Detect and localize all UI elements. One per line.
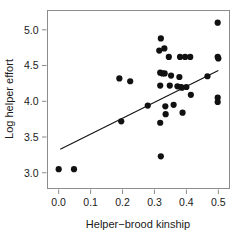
x-tick-label: 0.4	[179, 196, 194, 208]
plot-frame-box	[48, 11, 230, 189]
x-tick-label: 0.1	[83, 196, 98, 208]
data-point	[162, 70, 168, 76]
data-points	[56, 20, 222, 173]
y-tick-label: 4.0	[24, 95, 39, 107]
x-axis-ticks	[59, 190, 219, 195]
data-point	[215, 20, 221, 26]
data-point	[176, 74, 182, 80]
data-point	[71, 166, 77, 172]
x-tick-label: 0.3	[147, 196, 162, 208]
data-point	[167, 82, 173, 88]
x-tick-label: 0.5	[211, 196, 226, 208]
x-axis-tick-labels: 0.00.10.20.30.40.5	[51, 196, 225, 208]
y-tick-label: 3.0	[24, 167, 39, 179]
data-point	[127, 78, 133, 84]
x-tick-label: 0.2	[115, 196, 130, 208]
y-axis-label: Log helper effort	[3, 59, 15, 139]
plot-frame	[48, 11, 230, 189]
data-point	[166, 54, 172, 60]
regression-trend-line	[60, 71, 218, 150]
data-point	[168, 72, 174, 78]
regression-line	[60, 71, 218, 150]
data-point	[204, 73, 210, 79]
data-point	[183, 84, 189, 90]
data-point	[179, 110, 185, 116]
data-point	[116, 75, 122, 81]
data-point	[162, 103, 168, 109]
y-tick-label: 5.0	[24, 24, 39, 36]
plot-canvas: 0.00.10.20.30.40.5 3.03.54.04.55.0 Helpe…	[0, 0, 248, 234]
x-tick-label: 0.0	[51, 196, 66, 208]
data-point	[163, 111, 169, 117]
data-point	[157, 82, 163, 88]
data-point	[161, 45, 167, 51]
y-axis-ticks	[42, 30, 47, 173]
data-point	[145, 102, 151, 108]
data-point	[171, 102, 177, 108]
data-point	[158, 35, 164, 41]
data-point	[157, 120, 163, 126]
data-point	[56, 166, 62, 172]
data-point	[215, 99, 221, 105]
y-tick-label: 3.5	[24, 131, 39, 143]
data-point	[118, 118, 124, 124]
data-point	[215, 55, 221, 61]
scatter-plot-figure: 0.00.10.20.30.40.5 3.03.54.04.55.0 Helpe…	[0, 0, 248, 234]
data-point	[158, 153, 164, 159]
data-point	[188, 92, 194, 98]
y-tick-label: 4.5	[24, 59, 39, 71]
y-axis-tick-labels: 3.03.54.04.55.0	[24, 24, 39, 179]
x-axis-label: Helper−brood kinship	[86, 218, 190, 230]
data-point	[187, 54, 193, 60]
